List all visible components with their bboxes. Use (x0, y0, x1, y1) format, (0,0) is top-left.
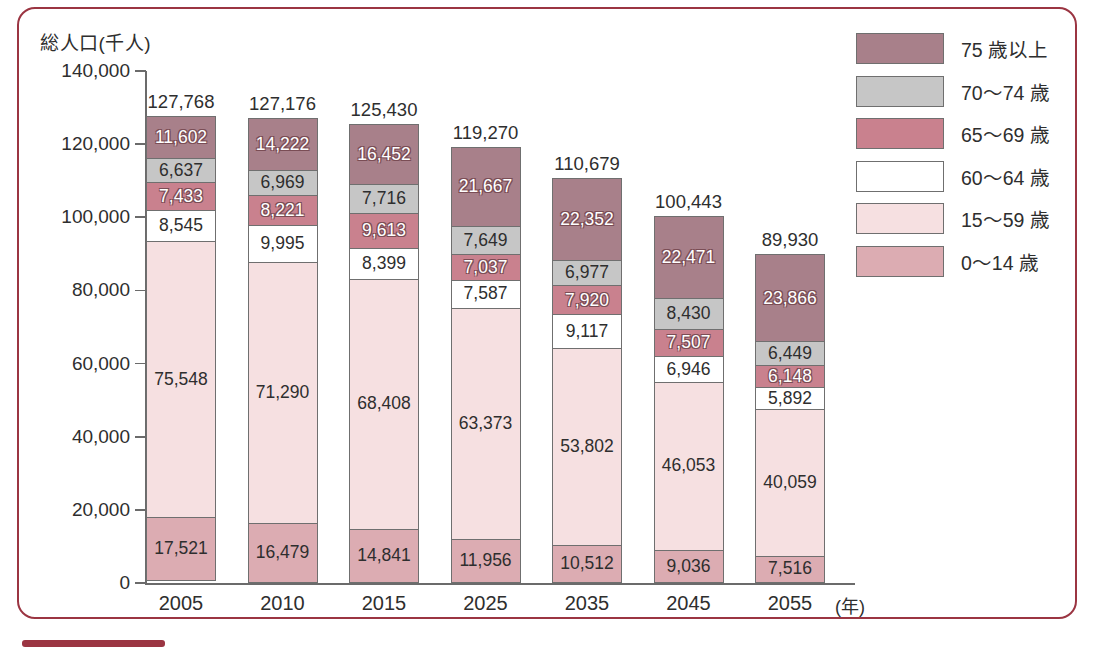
bar-segment[interactable]: 16,452 (349, 124, 419, 184)
bar-total-label: 100,443 (619, 191, 759, 213)
y-tick-label: 100,000 (61, 206, 130, 228)
bar-segment[interactable]: 7,920 (552, 285, 622, 314)
bar-segment[interactable]: 9,995 (248, 225, 318, 262)
plot-area: 11,6026,6377,4338,54575,54817,521127,768… (146, 71, 850, 583)
legend-60-64[interactable]: 60〜64 歳 (856, 158, 1050, 195)
bar-segment[interactable]: 17,521 (146, 517, 216, 581)
bar-segment[interactable]: 68,408 (349, 279, 419, 529)
bar-segment-value: 22,352 (560, 211, 614, 229)
bar-segment[interactable]: 8,430 (654, 298, 724, 329)
bar-segment[interactable]: 40,059 (755, 409, 825, 556)
bar-segment[interactable]: 6,449 (755, 341, 825, 365)
bar-segment-value: 63,373 (459, 415, 513, 433)
y-tick-label: 140,000 (61, 60, 130, 82)
stacked-bar[interactable]: 11,6026,6377,4338,54575,54817,521 (146, 116, 216, 583)
bar-segment[interactable]: 5,892 (755, 387, 825, 409)
bar-segment[interactable]: 11,956 (451, 539, 521, 583)
bar-segment-value: 7,516 (768, 560, 812, 578)
bar-segment[interactable]: 7,516 (755, 556, 825, 583)
bar-segment-value: 9,613 (362, 222, 406, 240)
bar-segment[interactable]: 7,433 (146, 182, 216, 209)
legend-0-14[interactable]: 0〜14 歳 (856, 243, 1050, 280)
bar-segment[interactable]: 8,221 (248, 195, 318, 225)
bar-segment[interactable]: 7,716 (349, 184, 419, 212)
bar-segment[interactable]: 6,637 (146, 158, 216, 182)
bar-segment-value: 8,430 (667, 305, 711, 323)
bar-segment-value: 10,512 (560, 555, 614, 573)
bar-segment-value: 8,545 (159, 217, 203, 235)
stacked-bar[interactable]: 23,8666,4496,1485,89240,0597,516 (755, 254, 825, 583)
bar-segment-value: 16,479 (256, 544, 310, 562)
stacked-bar[interactable]: 22,4718,4307,5076,94646,0539,036 (654, 216, 724, 583)
y-tick-label: 0 (119, 572, 130, 594)
bar-segment-value: 14,841 (357, 547, 411, 565)
bar-segment[interactable]: 7,037 (451, 254, 521, 280)
bar-segment[interactable]: 9,613 (349, 213, 419, 248)
bar-segment[interactable]: 7,507 (654, 329, 724, 356)
stacked-bar[interactable]: 16,4527,7169,6138,39968,40814,841 (349, 124, 419, 583)
legend-swatch (856, 161, 944, 192)
bar-segment[interactable]: 14,841 (349, 529, 419, 583)
legend-75-plus[interactable]: 75 歳以上 (856, 30, 1050, 67)
stacked-bar[interactable]: 21,6677,6497,0377,58763,37311,956 (451, 147, 521, 583)
bar-segment[interactable]: 71,290 (248, 262, 318, 523)
bar-segment-value: 5,892 (768, 390, 812, 408)
bar-segment-value: 14,222 (256, 136, 310, 154)
bar-segment[interactable]: 11,602 (146, 116, 216, 158)
bar-segment-value: 16,452 (357, 146, 411, 164)
bar-segment[interactable]: 21,667 (451, 147, 521, 226)
y-tick (135, 70, 146, 72)
stacked-bar[interactable]: 14,2226,9698,2219,99571,29016,479 (248, 118, 318, 583)
bar-segment[interactable]: 6,946 (654, 356, 724, 381)
legend-70-74[interactable]: 70〜74 歳 (856, 73, 1050, 110)
figure-root: 総人口(千人) 140,000120,000100,00080,00060,00… (0, 0, 1095, 651)
bar-segment-value: 9,995 (261, 235, 305, 253)
bar-segment[interactable]: 53,802 (552, 348, 622, 545)
legend-label: 15〜59 歳 (961, 204, 1050, 233)
bar-segment[interactable]: 6,969 (248, 170, 318, 195)
bar-segment-value: 53,802 (560, 438, 614, 456)
bar-segment-value: 7,920 (565, 292, 609, 310)
bar-segment[interactable]: 75,548 (146, 241, 216, 517)
bar-segment[interactable]: 7,587 (451, 280, 521, 308)
bar-segment[interactable]: 8,545 (146, 210, 216, 241)
bar-segment[interactable]: 46,053 (654, 382, 724, 550)
bar-segment[interactable]: 9,117 (552, 314, 622, 347)
bar-segment[interactable]: 14,222 (248, 118, 318, 170)
bar-segment-value: 7,507 (667, 334, 711, 352)
bar-segment[interactable]: 23,866 (755, 254, 825, 341)
x-axis-unit-label: (年) (835, 592, 865, 618)
bar-segment-value: 21,667 (459, 178, 513, 196)
y-tick (135, 582, 146, 584)
stacked-bar[interactable]: 22,3526,9777,9209,11753,80210,512 (552, 178, 622, 583)
bar-segment-value: 7,433 (159, 188, 203, 206)
bar-segment[interactable]: 6,148 (755, 365, 825, 387)
bar-segment[interactable]: 63,373 (451, 308, 521, 540)
legend: 75 歳以上70〜74 歳65〜69 歳60〜64 歳15〜59 歳0〜14 歳 (856, 30, 1050, 285)
bar-segment-value: 8,399 (362, 255, 406, 273)
bar-segment-value: 6,946 (667, 361, 711, 379)
bar-segment-value: 6,637 (159, 162, 203, 180)
bar-segment[interactable]: 16,479 (248, 523, 318, 583)
bar-segment-value: 9,117 (566, 323, 609, 341)
bar-segment[interactable]: 22,352 (552, 178, 622, 260)
bar-segment[interactable]: 7,649 (451, 226, 521, 254)
y-tick (135, 436, 146, 438)
bar-segment[interactable]: 6,977 (552, 260, 622, 286)
bar-segment-value: 22,471 (662, 249, 716, 267)
bar-segment[interactable]: 10,512 (552, 545, 622, 583)
legend-65-69[interactable]: 65〜69 歳 (856, 115, 1050, 152)
bar-segment[interactable]: 8,399 (349, 248, 419, 279)
bar-segment-value: 6,148 (768, 368, 812, 386)
bar-total-label: 110,679 (517, 153, 657, 175)
bar-total-label: 119,270 (416, 122, 556, 144)
bar-segment-value: 9,036 (667, 558, 711, 576)
bar-segment-value: 7,587 (464, 285, 508, 303)
bar-segment[interactable]: 9,036 (654, 550, 724, 583)
legend-15-59[interactable]: 15〜59 歳 (856, 200, 1050, 237)
bar-segment-value: 17,521 (154, 540, 208, 558)
y-tick (135, 363, 146, 365)
bar-segment-value: 23,866 (763, 290, 817, 308)
y-tick (135, 216, 146, 218)
bar-segment[interactable]: 22,471 (654, 216, 724, 298)
